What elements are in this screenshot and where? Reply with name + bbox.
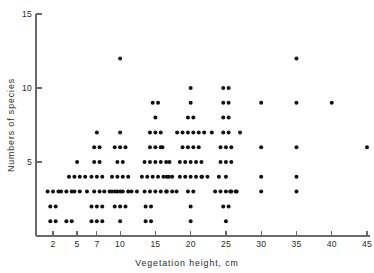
data-point: [181, 130, 185, 134]
data-point: [151, 175, 155, 179]
data-point: [194, 160, 198, 164]
data-point: [145, 175, 149, 179]
plot-canvas: 2571015202530354045 51015 Vegetation hei…: [0, 0, 374, 273]
data-point: [92, 145, 96, 149]
data-point: [186, 116, 190, 120]
data-point: [217, 175, 221, 179]
data-point: [365, 145, 369, 149]
y-tick-label-5: 5: [27, 157, 32, 167]
data-point: [95, 219, 99, 223]
data-point: [227, 86, 231, 90]
y-tick-label-10: 10: [22, 83, 32, 93]
data-point: [51, 190, 55, 194]
data-point: [189, 101, 193, 105]
data-point: [294, 101, 298, 105]
data-point: [85, 190, 89, 194]
data-point: [175, 130, 179, 134]
data-point: [118, 130, 122, 134]
data-point: [227, 101, 231, 105]
data-point: [151, 101, 155, 105]
data-point: [143, 160, 147, 164]
data-point: [148, 160, 152, 164]
data-point: [259, 190, 263, 194]
data-point: [89, 219, 93, 223]
data-point: [153, 190, 157, 194]
x-tick-label-30: 30: [256, 239, 266, 249]
data-point: [78, 175, 82, 179]
y-axis-title: Numbers of species: [6, 78, 16, 172]
data-point: [221, 101, 225, 105]
data-point: [118, 56, 122, 60]
data-point: [229, 145, 233, 149]
data-point: [148, 190, 152, 194]
data-point: [98, 160, 102, 164]
data-point: [221, 130, 225, 134]
data-point: [126, 175, 130, 179]
data-point: [95, 130, 99, 134]
data-point: [197, 145, 201, 149]
data-point: [259, 101, 263, 105]
data-point: [178, 160, 182, 164]
x-axis-title: Vegetation height, cm: [135, 258, 239, 268]
data-point: [227, 116, 231, 120]
data-point: [148, 130, 152, 134]
data-point: [115, 175, 119, 179]
data-point: [92, 160, 96, 164]
data-point: [224, 175, 228, 179]
data-point: [159, 190, 163, 194]
data-point: [98, 145, 102, 149]
data-point: [159, 130, 163, 134]
data-point: [144, 219, 148, 223]
data-point: [64, 219, 68, 223]
data-point: [259, 175, 263, 179]
data-point: [191, 116, 195, 120]
data-point: [98, 190, 102, 194]
data-point: [156, 101, 160, 105]
x-tick-label-25: 25: [221, 239, 231, 249]
data-point: [186, 190, 190, 194]
data-point: [59, 190, 63, 194]
data-point: [124, 145, 128, 149]
data-point: [175, 190, 179, 194]
data-point: [165, 175, 169, 179]
data-point: [153, 130, 157, 134]
data-point: [118, 145, 122, 149]
data-point: [143, 190, 147, 194]
data-point: [199, 160, 203, 164]
data-point: [191, 190, 195, 194]
data-point: [189, 175, 193, 179]
x-tick-label-10: 10: [115, 239, 125, 249]
data-point: [183, 175, 187, 179]
data-point: [48, 219, 52, 223]
data-point: [149, 219, 153, 223]
data-point: [170, 190, 174, 194]
data-point: [167, 160, 171, 164]
data-point: [144, 204, 148, 208]
x-axis-tick-labels: 2571015202530354045: [51, 239, 372, 249]
data-point: [54, 219, 58, 223]
data-point: [200, 175, 204, 179]
data-point: [89, 204, 93, 208]
x-tick-label-35: 35: [291, 239, 301, 249]
data-point: [228, 190, 232, 194]
data-point: [54, 204, 58, 208]
data-point: [197, 130, 201, 134]
data-point: [330, 101, 334, 105]
data-point: [156, 175, 160, 179]
y-tick-label-15: 15: [22, 9, 32, 19]
x-tick-label-45: 45: [362, 239, 372, 249]
data-point: [234, 190, 238, 194]
data-point: [121, 190, 125, 194]
data-point: [148, 145, 152, 149]
data-point: [78, 190, 82, 194]
data-point: [92, 190, 96, 194]
scatter-plot-figure: 2571015202530354045 51015 Vegetation hei…: [0, 0, 374, 273]
data-point: [189, 160, 193, 164]
data-point: [102, 190, 106, 194]
data-point: [224, 190, 228, 194]
data-point: [186, 145, 190, 149]
data-point: [130, 190, 134, 194]
x-tick-label-2: 2: [51, 239, 56, 249]
data-point: [221, 116, 225, 120]
data-point: [227, 204, 231, 208]
